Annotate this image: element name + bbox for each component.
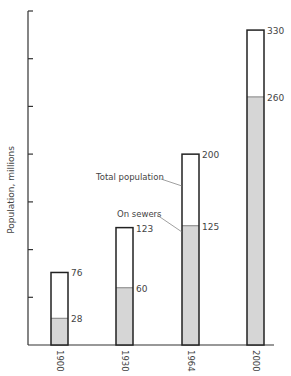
x-tick-label: 2000 [251,350,261,372]
bar-1900: 76281900 [51,268,83,371]
value-label-total: 76 [71,268,83,278]
x-tick-label: 1964 [186,350,196,372]
x-tick-label: 1900 [55,350,65,372]
population-sewer-chart: Population, millions 7628190012360193020… [0,0,291,376]
value-label-sewers: 260 [267,93,284,103]
value-label-total: 123 [136,224,153,234]
value-label-sewers: 28 [71,314,83,324]
bar-1930: 123601930 [116,224,153,372]
annotation-total-population: Total population [95,172,164,182]
bar-2000: 3302602000 [247,26,284,372]
bar-sewers-segment [116,288,133,345]
bar-sewers-segment [51,318,68,345]
leader-total [161,179,182,186]
y-axis [28,11,33,345]
annotation-on-sewers: On sewers [117,209,162,219]
bar-1964: 2001251964 [182,150,219,371]
value-label-sewers: 125 [202,222,219,232]
x-tick-label: 1930 [120,350,130,372]
leader-sewers [157,215,182,232]
bar-sewers-segment [182,226,199,345]
value-label-total: 330 [267,26,284,36]
value-label-sewers: 60 [136,284,148,294]
value-label-total: 200 [202,150,219,160]
y-axis-label: Population, millions [6,146,16,234]
bar-sewers-segment [247,97,264,345]
bars: 7628190012360193020012519643302602000 [51,26,284,372]
